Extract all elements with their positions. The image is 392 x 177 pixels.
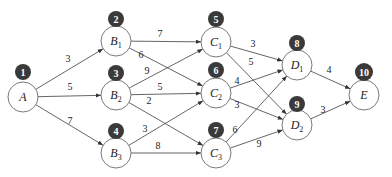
node-label: E	[359, 88, 368, 102]
edge-c1-d1: 3	[230, 38, 282, 61]
edge-weight-label: 5	[249, 56, 254, 67]
edge-a-b2: 5	[38, 81, 101, 97]
node-c2: C26	[201, 62, 231, 108]
step-badge-number: 5	[214, 14, 219, 25]
edge-b2-c2: 5	[131, 81, 201, 95]
edge-arrow	[131, 41, 201, 42]
edge-a-b3: 7	[36, 105, 103, 146]
node-e: E10	[349, 63, 379, 110]
edge-weight-label: 5	[158, 81, 163, 92]
edge-b2-c3: 2	[129, 95, 203, 145]
node-d1: D18	[282, 35, 312, 80]
edge-weight-label: 7	[68, 115, 73, 126]
step-badge-number: 4	[114, 126, 119, 137]
node-c1: C15	[201, 11, 231, 57]
edge-c2-d1: 4	[230, 70, 283, 88]
edge-arrow	[311, 101, 351, 119]
edge-weight-label: 4	[327, 64, 332, 75]
node-d2: D29	[282, 96, 312, 140]
step-badge-number: 8	[295, 38, 300, 49]
edge-weight-label: 6	[233, 124, 238, 135]
edge-weight-label: 3	[321, 104, 326, 115]
nodes-layer: A1B12B23B34C15C26C37D18D29E10	[8, 11, 379, 168]
node-a: A1	[8, 64, 38, 112]
step-badge-number: 10	[359, 67, 369, 78]
step-badge-number: 6	[214, 65, 219, 76]
edge-arrow	[230, 46, 282, 61]
edge-weight-label: 9	[145, 65, 150, 76]
edge-weight-label: 3	[235, 99, 240, 110]
edge-weight-label: 2	[147, 95, 152, 106]
edge-weight-label: 5	[68, 81, 73, 92]
node-label: A	[18, 90, 27, 104]
node-b3: B34	[101, 123, 131, 168]
edge-b1-c1: 7	[131, 28, 201, 42]
edge-weight-label: 9	[257, 138, 262, 149]
node-c3: C37	[201, 122, 231, 168]
edge-c3-d2: 9	[230, 130, 283, 149]
edge-weight-label: 4	[235, 75, 240, 86]
edge-weight-label: 3	[66, 53, 71, 64]
step-badge-number: 2	[114, 14, 119, 25]
node-b2: B23	[101, 65, 131, 110]
edge-weight-label: 7	[158, 28, 163, 39]
node-b1: B12	[101, 11, 131, 56]
edge-weight-label: 6	[139, 49, 144, 60]
edge-arrow	[131, 93, 201, 94]
step-badge-number: 9	[295, 99, 300, 110]
edge-d2-e: 3	[311, 101, 351, 119]
edge-b3-c3: 8	[131, 140, 201, 153]
edge-arrow	[38, 95, 101, 96]
edge-weight-label: 3	[251, 38, 256, 49]
step-badge-number: 3	[114, 68, 119, 79]
edge-weight-label: 3	[143, 123, 148, 134]
edge-b1-c2: 6	[129, 48, 202, 86]
network-diagram: 357769523835436943 A1B12B23B34C15C26C37D…	[0, 0, 392, 177]
edge-weight-label: 8	[156, 140, 161, 151]
edge-d1-e: 4	[311, 64, 351, 89]
step-badge-number: 7	[214, 125, 219, 136]
step-badge-number: 1	[21, 67, 26, 78]
